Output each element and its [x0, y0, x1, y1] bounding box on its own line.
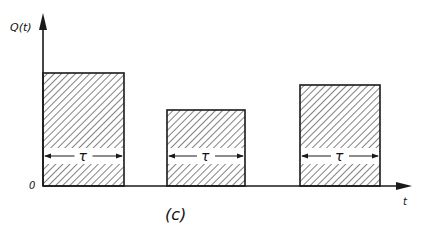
tau-label: τ	[79, 148, 88, 164]
pulse-3: τ	[300, 85, 380, 186]
origin-label: 0	[29, 180, 35, 191]
figure-caption: (c)	[165, 205, 186, 224]
tau-label: τ	[335, 148, 344, 164]
y-axis-label: Q(t)	[10, 21, 32, 34]
tau-label: τ	[201, 148, 210, 164]
q-axis-arrow-icon	[39, 13, 47, 30]
x-axis-label: t	[403, 196, 408, 207]
pulse-2: τ	[167, 110, 245, 186]
pulse-1: τ	[43, 73, 124, 186]
pulse-diagram: τττ Q(t) 0 t (c)	[0, 0, 426, 232]
t-axis-arrow-icon	[396, 182, 412, 190]
